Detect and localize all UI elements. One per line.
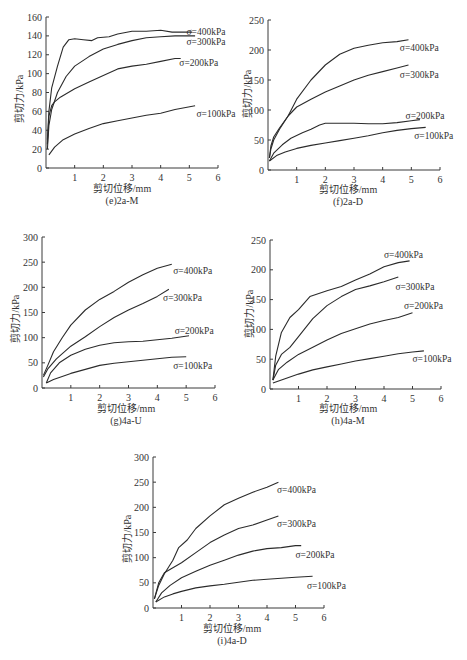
series-label: σ=200kPa: [296, 550, 336, 560]
y-tick-label: 300: [134, 452, 149, 463]
y-tick-label: 0: [144, 603, 149, 614]
series-line: [154, 482, 278, 599]
x-tick-label: 5: [293, 612, 298, 623]
series-line: [156, 546, 301, 602]
series-label: σ=100kPa: [307, 581, 347, 591]
series-label: σ=400kPa: [277, 485, 317, 495]
y-tick-label: 50: [139, 577, 149, 588]
chart-caption: (i)4a-D: [192, 635, 272, 646]
y-tick-label: 200: [134, 502, 149, 513]
x-tick-label: 6: [322, 612, 327, 623]
x-tick-label: 1: [179, 612, 184, 623]
chart-plot-i: 050100150200250300123456σ=100kPaσ=200kPa…: [0, 0, 467, 660]
series-line: [154, 516, 278, 599]
y-tick-label: 250: [134, 477, 149, 488]
y-tick-label: 100: [134, 552, 149, 563]
y-axis-label: 剪切力/kPa: [119, 503, 134, 563]
y-tick-label: 150: [134, 527, 149, 538]
series-line: [156, 576, 313, 602]
x-axis-label: 剪切位移/mm: [192, 620, 272, 635]
series-label: σ=300kPa: [277, 519, 317, 529]
